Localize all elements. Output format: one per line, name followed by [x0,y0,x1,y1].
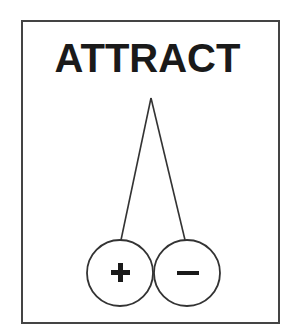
right-string [151,98,185,240]
negative-ball [154,240,220,306]
minus-icon [177,271,199,275]
left-string [121,98,151,240]
positive-ball [87,240,153,306]
pendulum-diagram [0,0,295,335]
strings [121,98,185,240]
